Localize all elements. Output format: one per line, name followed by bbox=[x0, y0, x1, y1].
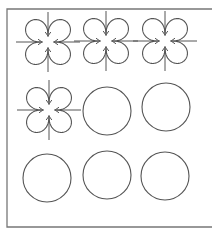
circle-icon bbox=[83, 87, 131, 135]
clover-field-icon bbox=[16, 12, 80, 72]
figure-grid bbox=[16, 11, 197, 202]
circle-icon bbox=[83, 151, 131, 199]
clover-field-icon bbox=[17, 80, 81, 140]
figure-canvas bbox=[0, 0, 212, 238]
circle-icon bbox=[141, 152, 189, 200]
clover-field-icon bbox=[74, 11, 138, 71]
circle-icon bbox=[23, 154, 71, 202]
clover-field-icon bbox=[133, 11, 197, 71]
circle-icon bbox=[142, 83, 190, 131]
